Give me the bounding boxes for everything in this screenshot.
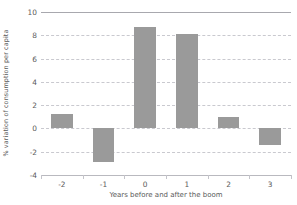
x-tick-mark [208, 175, 209, 179]
x-tick-mark [166, 175, 167, 179]
bar-chart: % variation of consumption per capita 10… [0, 0, 297, 205]
y-tick-label: 0 [32, 125, 37, 133]
y-tick-label: -4 [30, 172, 37, 180]
y-tick-label: 4 [32, 79, 37, 87]
bar-0[interactable] [134, 27, 156, 128]
x-tick-mark [124, 175, 125, 179]
x-tick-label: 2 [226, 180, 231, 189]
x-tick-mark [83, 175, 84, 179]
y-axis-title: % variation of consumption per capita [1, 8, 12, 178]
bar-neg1[interactable] [93, 128, 115, 162]
y-tick-label: 10 [28, 9, 37, 17]
chart-title [0, 0, 297, 3]
x-tick-mark [291, 175, 292, 179]
x-tick-label: -2 [58, 180, 65, 189]
y-tick-label: 6 [32, 56, 37, 64]
x-tick-label: 0 [143, 180, 148, 189]
y-tick-label: -2 [30, 149, 37, 157]
x-tick-label: -1 [100, 180, 107, 189]
bar-series [41, 12, 291, 175]
y-tick-label: 2 [32, 102, 37, 110]
bar-neg2[interactable] [51, 114, 73, 128]
x-axis-ticks: -2-10123 [41, 175, 291, 187]
y-tick-label: 8 [32, 32, 37, 40]
x-tick-mark [41, 175, 42, 179]
plot-area: 1086420-2-4 [41, 12, 291, 175]
bar-3[interactable] [259, 128, 281, 144]
x-tick-mark [249, 175, 250, 179]
x-tick-label: 1 [184, 180, 189, 189]
bar-2[interactable] [218, 117, 240, 129]
x-tick-label: 3 [268, 180, 273, 189]
x-axis-title: Years before and after the boom [41, 191, 291, 200]
bar-1[interactable] [176, 34, 198, 128]
